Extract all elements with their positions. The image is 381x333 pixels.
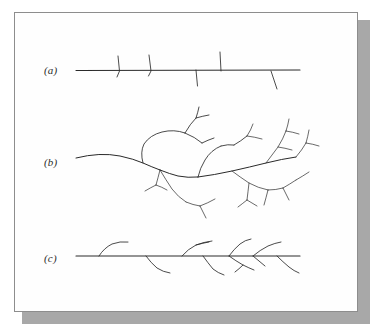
branch-path (196, 115, 209, 118)
branch-path (296, 143, 306, 157)
branch-path (286, 119, 289, 131)
panel-label-a: (a) (44, 64, 57, 76)
branch-path (160, 170, 198, 177)
branch-path (283, 188, 289, 200)
branch-path (278, 147, 292, 150)
branch-path (149, 55, 152, 76)
branching-diagram-svg (14, 12, 360, 314)
branch-path (286, 131, 299, 134)
branch-path (220, 52, 221, 71)
branch-path (156, 185, 167, 190)
branch-path (247, 183, 249, 200)
panel-b-drawing (76, 107, 319, 218)
branch-path (146, 256, 170, 273)
branch-path (247, 124, 253, 136)
branch-path (229, 256, 254, 270)
branch-path (235, 265, 243, 272)
branch-path (234, 136, 247, 145)
branch-path (185, 133, 202, 143)
branch-path (266, 131, 286, 163)
branch-path (200, 199, 215, 206)
branch-path (306, 130, 309, 143)
branch-path (76, 70, 300, 71)
branch-path (264, 190, 268, 205)
branch-path (283, 180, 296, 188)
branch-path (198, 157, 296, 177)
panel-a-drawing (76, 52, 300, 89)
branch-path (196, 242, 209, 245)
branch-path (76, 154, 160, 170)
branch-path (253, 256, 265, 266)
branch-path (277, 256, 299, 273)
branch-path (200, 206, 206, 218)
branch-path (271, 71, 277, 89)
branch-path (142, 131, 185, 163)
branch-path (247, 200, 257, 206)
branch-path (203, 256, 224, 275)
branch-path (117, 56, 120, 77)
branch-path (99, 242, 128, 256)
branch-path (268, 188, 283, 190)
branch-path (247, 136, 262, 139)
branch-path (156, 170, 160, 185)
panel-c-drawing (76, 239, 300, 275)
branch-path (296, 172, 309, 180)
branch-path (196, 70, 198, 86)
panel-label-b: (b) (44, 156, 57, 168)
branch-path (238, 200, 247, 207)
panel-label-c: (c) (44, 252, 57, 264)
branch-path (221, 145, 234, 146)
branch-path (253, 242, 281, 256)
figure-root: (a) (b) (c) (0, 0, 381, 333)
branch-path (232, 171, 268, 190)
branch-path (182, 241, 212, 256)
branch-path (202, 138, 214, 143)
branch-path (306, 143, 319, 146)
branch-path (145, 185, 156, 191)
branch-path (186, 202, 200, 206)
branch-path (198, 146, 221, 177)
branch-path (185, 118, 196, 133)
branch-path (196, 107, 199, 118)
branch-path (229, 239, 251, 256)
